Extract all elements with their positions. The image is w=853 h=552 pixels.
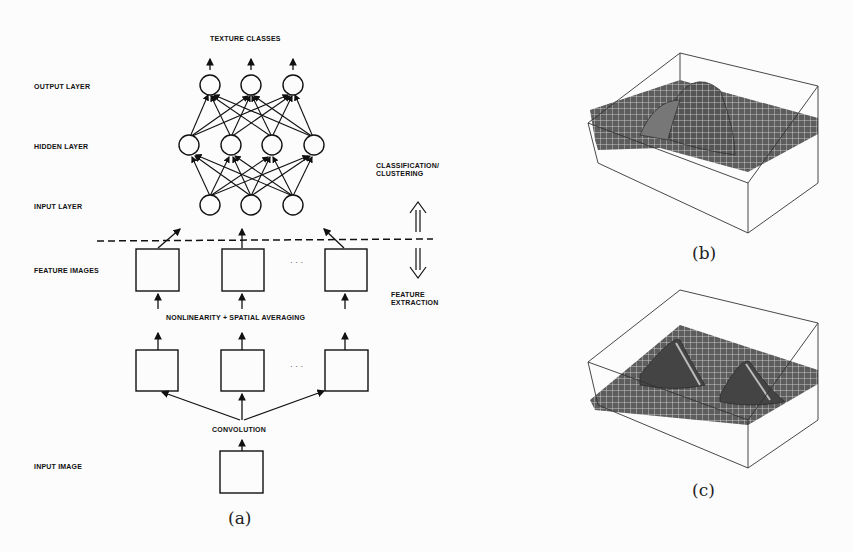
nonlinearity-arrows <box>158 294 345 350</box>
classification-line-1: CLASSIFICATION/ <box>376 162 439 170</box>
input-nodes <box>200 195 303 215</box>
surface-plot-c <box>588 290 818 468</box>
double-arrow-up-icon <box>410 202 426 232</box>
caption-a: (a) <box>228 508 251 528</box>
hidden-nodes <box>179 135 324 155</box>
output-layer-label: OUTPUT LAYER <box>34 83 90 90</box>
nonlinearity-label: NONLINEARITY + SPATIAL AVERAGING <box>166 314 305 321</box>
hidden-to-output-edges <box>190 95 313 137</box>
convolution-arrows <box>162 391 324 451</box>
diagram-canvas <box>0 0 853 552</box>
stage-separator <box>97 239 433 241</box>
input-image-label: INPUT IMAGE <box>34 463 82 470</box>
output-nodes <box>200 75 303 95</box>
ellipsis-convolution: · · · <box>290 362 303 371</box>
caption-b: (b) <box>692 243 716 263</box>
texture-classes-label: TEXTURE CLASSES <box>210 35 281 42</box>
input-image-box <box>220 451 263 493</box>
double-arrow-down-icon <box>410 248 426 278</box>
input-to-hidden-edges <box>192 155 312 196</box>
feature-to-input-arrows <box>158 229 344 248</box>
feature-extraction-label: FEATURE EXTRACTION <box>391 291 439 307</box>
caption-c: (c) <box>692 480 715 500</box>
classification-line-2: CLUSTERING <box>376 170 439 178</box>
output-arrows <box>210 59 293 70</box>
classification-label: CLASSIFICATION/ CLUSTERING <box>376 162 439 178</box>
ellipsis-feature: · · · <box>290 258 303 267</box>
feature-image-boxes <box>136 249 367 291</box>
input-layer-label: INPUT LAYER <box>34 203 82 210</box>
convolution-output-boxes <box>136 350 368 391</box>
feature-images-label: FEATURE IMAGES <box>34 267 99 274</box>
hidden-layer-label: HIDDEN LAYER <box>34 143 88 150</box>
convolution-label: CONVOLUTION <box>212 426 266 433</box>
surface-plot-b <box>588 53 818 233</box>
feature-extraction-line-2: EXTRACTION <box>391 299 439 307</box>
feature-extraction-line-1: FEATURE <box>391 291 439 299</box>
